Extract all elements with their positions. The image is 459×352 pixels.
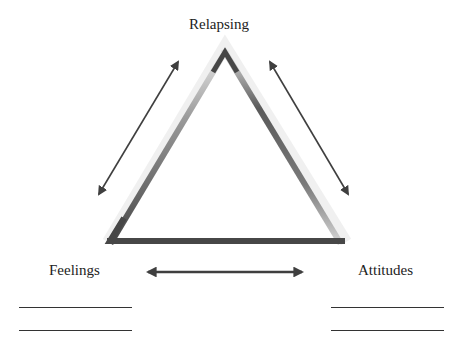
triangle-side-right xyxy=(225,52,339,241)
blank-line-attitudes-1[interactable] xyxy=(331,307,444,308)
blank-line-attitudes-2[interactable] xyxy=(331,330,444,331)
triangle-glow xyxy=(108,46,346,242)
arrow-relapsing-feelings xyxy=(99,62,178,194)
triangle-side-left xyxy=(112,52,225,241)
blank-line-feelings-1[interactable] xyxy=(19,307,132,308)
triangle-diagram xyxy=(0,0,459,352)
blank-line-feelings-2[interactable] xyxy=(19,330,132,331)
